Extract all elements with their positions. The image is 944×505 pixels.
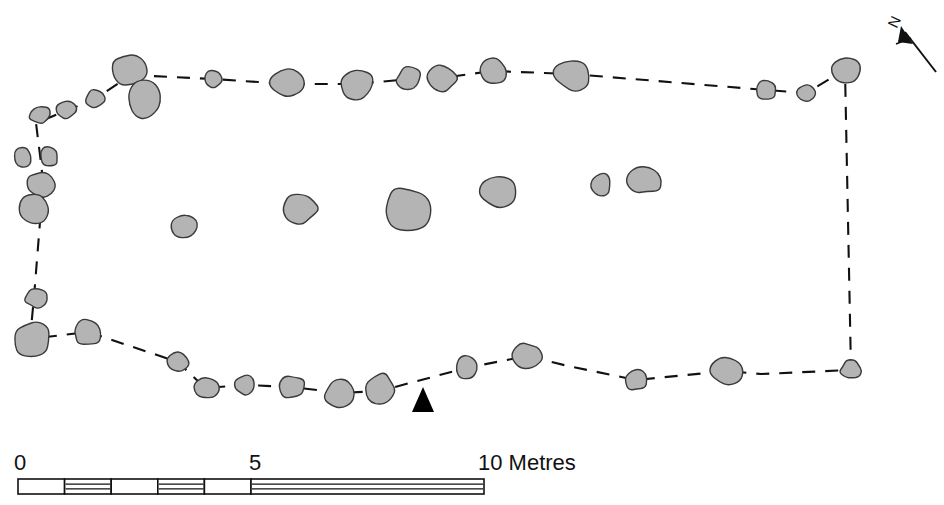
perimeter-stone-10 — [15, 322, 49, 356]
perimeter-stone-5 — [15, 147, 31, 167]
perimeter-stone-31 — [512, 343, 542, 368]
scale-segment-2 — [111, 479, 158, 494]
scale-segment-3 — [158, 479, 205, 494]
scale-tick-label-0: 0 — [14, 450, 26, 475]
perimeter-stone-13 — [194, 378, 219, 398]
site-plan-figure: N 0 5 10 Metres — [0, 0, 944, 505]
scale-segment-1 — [65, 479, 112, 494]
scale-tick-label-10: 10 Metres — [478, 450, 576, 475]
scale-segment-right-half — [251, 479, 484, 494]
scale-bar-graphic — [18, 479, 484, 494]
scale-tick-label-5: 5 — [249, 450, 261, 475]
perimeter-stone-15 — [279, 376, 304, 397]
internal-stone-5 — [627, 167, 661, 193]
perimeter-stone-6 — [41, 147, 57, 166]
site-plan-canvas: N 0 5 10 Metres — [0, 0, 944, 505]
perimeter-stone-25 — [757, 80, 776, 99]
scale-segment-0 — [18, 479, 65, 494]
perimeter-stone-32 — [457, 356, 477, 379]
scale-segment-4 — [204, 479, 251, 494]
perimeter-stone-26 — [797, 85, 816, 101]
perimeter-stone-8 — [19, 194, 48, 223]
perimeter-stone-27 — [832, 58, 861, 83]
internal-stone-0 — [171, 215, 197, 237]
